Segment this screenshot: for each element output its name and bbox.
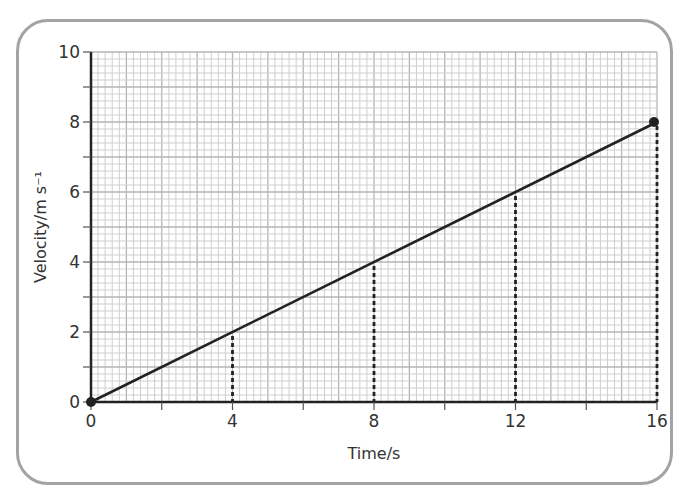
x-tick-label: 4 (227, 411, 238, 431)
y-tick-label: 10 (58, 42, 80, 62)
y-tick-label: 8 (69, 112, 80, 132)
x-tick-label: 0 (86, 411, 97, 431)
data-point-marker (86, 397, 96, 407)
velocity-time-chart: 04812160246810 Time/s Velocity/m s⁻¹ (0, 0, 696, 503)
x-tick-label: 16 (646, 411, 668, 431)
grid (91, 52, 657, 402)
x-tick-label: 8 (369, 411, 380, 431)
y-axis-title: Velocity/m s⁻¹ (31, 171, 50, 283)
y-tick-label: 4 (69, 252, 80, 272)
y-tick-label: 2 (69, 322, 80, 342)
x-axis-title: Time/s (347, 444, 401, 463)
y-tick-label: 6 (69, 182, 80, 202)
y-tick-label: 0 (69, 392, 80, 412)
x-tick-label: 12 (505, 411, 527, 431)
data-point-marker (649, 117, 659, 127)
